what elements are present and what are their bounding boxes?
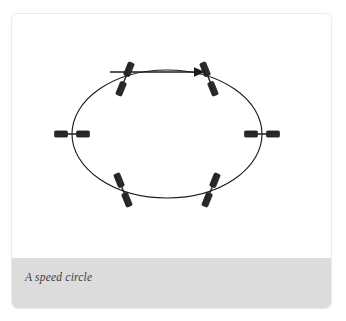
marker-bottom-right bbox=[202, 173, 221, 208]
track-ellipse bbox=[72, 70, 262, 198]
figure-card: A speed circle bbox=[11, 13, 332, 309]
figure-caption-strip: A speed circle bbox=[12, 258, 331, 308]
marker-bottom-left bbox=[114, 173, 133, 208]
speed-circle-diagram bbox=[12, 14, 331, 258]
figure-caption: A speed circle bbox=[25, 271, 92, 283]
figure-image-area bbox=[12, 14, 331, 258]
